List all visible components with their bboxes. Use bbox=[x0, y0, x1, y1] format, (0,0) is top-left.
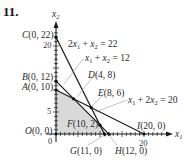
equation-label-c1: 2x1 + x2 = 22 bbox=[68, 39, 118, 50]
point-F bbox=[98, 124, 101, 127]
equation-label-c2: x1 + x2 = 12 bbox=[84, 53, 130, 64]
point-D bbox=[72, 97, 75, 100]
point-B bbox=[54, 80, 57, 83]
lp-feasible-region-diagram: 11. bbox=[0, 0, 185, 163]
point-label-G: G(11, 0) bbox=[70, 146, 102, 157]
y-tick-label-20: 20 bbox=[43, 40, 52, 50]
point-G bbox=[103, 132, 106, 135]
problem-number: 11. bbox=[3, 4, 19, 19]
point-label-A: A(0, 10) bbox=[21, 82, 53, 93]
y-tick-label-5: 5 bbox=[47, 106, 51, 116]
equation-label-c3: x1 + 2x2 = 20 bbox=[127, 95, 178, 106]
point-C bbox=[54, 36, 57, 39]
y-axis-label: x2 bbox=[51, 9, 60, 20]
y-axis-arrow-icon bbox=[54, 21, 59, 28]
point-O bbox=[54, 132, 57, 135]
point-A bbox=[54, 88, 57, 91]
point-E bbox=[90, 106, 93, 109]
point-label-F: F(10, 2) bbox=[66, 119, 98, 130]
origin-tick-label: 0 bbox=[48, 136, 52, 146]
x-axis-label: x1 bbox=[174, 129, 182, 140]
point-label-H: H(12, 0) bbox=[114, 146, 147, 157]
point-label-O: O(0, 0) bbox=[25, 126, 52, 137]
point-label-D: D(4, 8) bbox=[87, 70, 115, 81]
point-label-E: E(8, 6) bbox=[97, 88, 124, 99]
x-axis-arrow-icon bbox=[166, 132, 173, 137]
point-label-C: C(0, 22) bbox=[22, 30, 54, 41]
point-H bbox=[107, 132, 110, 135]
point-label-I: I(20, 0) bbox=[136, 121, 166, 132]
point-I bbox=[142, 132, 145, 135]
